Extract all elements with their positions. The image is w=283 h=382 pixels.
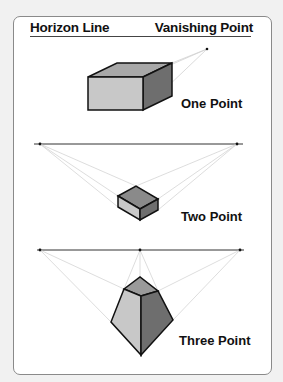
one-point-label: One Point bbox=[181, 96, 242, 111]
two-point-label: Two Point bbox=[181, 209, 242, 224]
three-point-label: Three Point bbox=[179, 333, 251, 348]
perspective-diagrams bbox=[0, 0, 283, 382]
vanishing-point-marker bbox=[206, 48, 209, 51]
